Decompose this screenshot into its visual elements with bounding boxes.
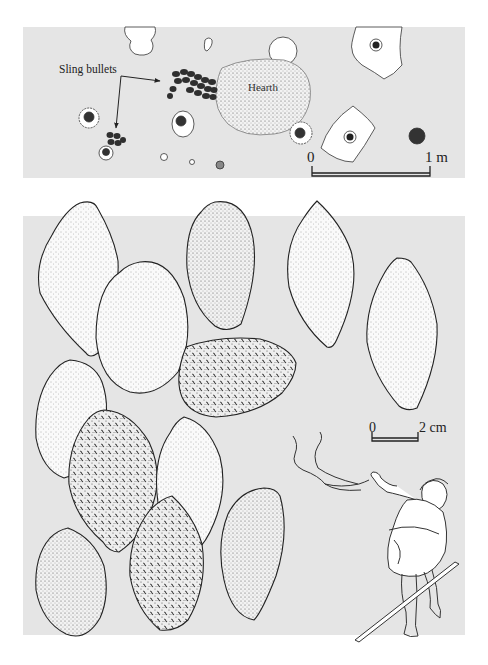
slinger-figure [293, 432, 459, 642]
scale-2cm-start-label: 0 [369, 421, 376, 435]
scale-2cm-end-label: 2 cm [419, 421, 447, 435]
sling-bullet-6 [179, 338, 296, 417]
sling-bullet-3 [288, 201, 354, 347]
sling-bullet-4 [367, 258, 437, 410]
scale-bar-2cm [372, 432, 418, 441]
sling-bullet-12 [221, 488, 284, 620]
sling-bullet-5 [96, 262, 188, 393]
sling-bullet-2 [187, 202, 255, 330]
sling-bullet-11 [36, 528, 106, 636]
sling-bullets-drawing [0, 0, 488, 665]
